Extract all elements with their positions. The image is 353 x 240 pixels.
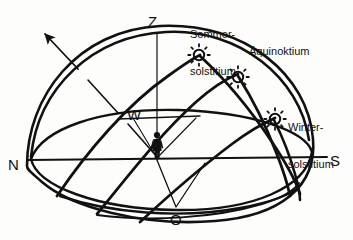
summer-solstice-label: Sommer- solstitium	[190, 3, 236, 102]
north-label: N	[8, 157, 19, 174]
equinox-label: Äquinoktium	[249, 45, 310, 57]
summer-solstice-label-line2: solstitium	[190, 65, 236, 77]
sight-line-w	[133, 118, 157, 158]
winter-solstice-label: Winter- solstitium	[288, 96, 334, 195]
sight-line-horizon	[157, 118, 196, 158]
winter-solstice-label-line2: solstitium	[288, 158, 334, 170]
east-label: O	[170, 212, 182, 229]
west-label: W	[127, 107, 141, 124]
summer-solstice-label-line1: Sommer-	[190, 28, 236, 40]
zenith-label: Z	[148, 14, 157, 31]
celestial-sphere-diagram: Z N S W O Sommer- solstitium Äquinoktium…	[0, 0, 353, 240]
winter-solstice-label-line1: Winter-	[288, 121, 334, 133]
